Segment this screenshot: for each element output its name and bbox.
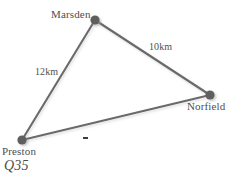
node-norfield: [205, 90, 214, 99]
node-preston: [17, 135, 26, 144]
node-label-norfield: Norfield: [187, 100, 225, 112]
node-label-marsden: Marsden: [51, 8, 91, 20]
node-marsden: [90, 15, 99, 24]
edge-preston-norfield: [22, 95, 210, 140]
edge-marsden-preston: [22, 20, 95, 140]
edge-label-marsden-norfield: 10km: [149, 41, 172, 52]
question-number: Q35: [4, 158, 29, 173]
triangle-diagram: Marsden Norfield Preston 10km 12km Q35: [0, 0, 234, 175]
base-tick-mark: [83, 137, 88, 139]
edge-marsden-norfield: [95, 20, 210, 95]
node-label-preston: Preston: [2, 145, 36, 157]
edge-label-marsden-preston: 12km: [35, 66, 58, 77]
